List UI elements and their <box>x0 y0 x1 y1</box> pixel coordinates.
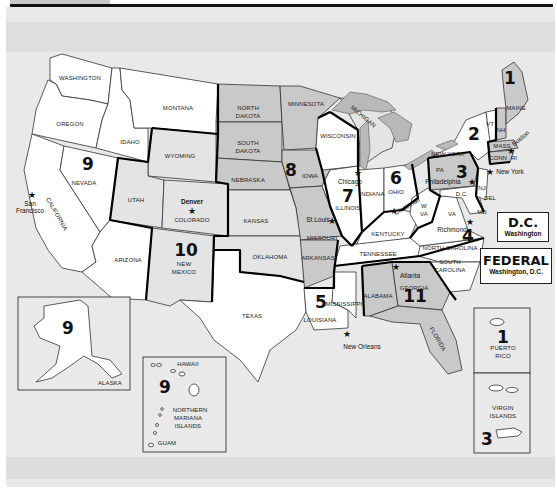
label-new-mexico-1: NEW <box>177 261 192 267</box>
label-new-hampshire: NH <box>497 127 506 133</box>
star-icon-philadelphia: ★ <box>468 177 476 187</box>
label-marianas-2: MARIANA <box>174 415 202 421</box>
star-icon-atlanta: ★ <box>392 262 400 272</box>
label-north-dakota-2: DAKOTA <box>236 113 261 119</box>
city-richmond: Richmond <box>437 226 467 233</box>
label-north-dakota-1: NORTH <box>237 105 259 111</box>
label-ohio: OHIO <box>388 189 404 195</box>
label-pennsylvania: PA <box>436 167 444 173</box>
label-delaware: DEL <box>484 195 497 201</box>
lake-michigan <box>360 120 370 170</box>
label-wisconsin: WISCONSIN <box>320 133 356 139</box>
label-virginia: VA <box>448 211 456 217</box>
state-kansas[interactable] <box>228 190 300 236</box>
state-montana[interactable] <box>120 68 218 134</box>
label-indiana: INDIANA <box>359 191 384 197</box>
region-number-1-puerto-rico: 1 <box>497 327 509 347</box>
label-new-jersey: NJ <box>478 185 486 191</box>
city-new-orleans: New Orleans <box>343 343 381 350</box>
label-virgin-islands-2: ISLANDS <box>490 413 516 419</box>
label-puerto-rico-2: RICO <box>495 353 511 359</box>
legend-federal-subtitle: Washington, D.C. <box>481 268 551 275</box>
label-nevada: NEVADA <box>72 180 97 186</box>
island-marianas-4 <box>154 432 157 435</box>
label-south-dakota-1: SOUTH <box>237 140 259 146</box>
star-icon-richmond: ★ <box>466 217 474 227</box>
region-number-11: 11 <box>403 286 427 306</box>
label-south-carolina-2: CAROLINA <box>434 267 465 273</box>
island-marianas-3 <box>156 424 159 427</box>
star-icon-new-york: ★ <box>486 167 494 177</box>
region-number-1: 1 <box>504 68 516 88</box>
state-florida[interactable] <box>370 306 462 374</box>
label-arizona: ARIZONA <box>114 257 141 263</box>
label-puerto-rico-1: PUERTO <box>490 345 516 351</box>
label-iowa: IOWA <box>302 173 318 179</box>
label-washington: WASHINGTON <box>59 75 101 81</box>
island-puerto-rico <box>490 319 504 326</box>
legend-federal-title: FEDERAL <box>481 253 551 268</box>
region-number-9-alaska: 9 <box>62 318 74 338</box>
island-oahu <box>157 364 162 367</box>
label-arkansas: ARKANSAS <box>301 255 334 261</box>
city-chicago: Chicago <box>338 178 362 186</box>
island-molokai <box>171 370 176 373</box>
label-wyoming: WYOMING <box>165 153 196 159</box>
star-icon-new-orleans: ★ <box>343 329 351 339</box>
label-south-carolina-1: SOUTH <box>439 259 461 265</box>
label-tennessee: TENNESSEE <box>359 251 396 257</box>
label-missouri: MISSOURI <box>307 235 338 241</box>
label-south-dakota-2: DAKOTA <box>236 148 261 154</box>
label-maryland: MD <box>477 209 487 215</box>
region-number-9-hawaii: 9 <box>159 377 171 397</box>
state-new-hampshire[interactable] <box>496 108 506 140</box>
state-arkansas[interactable] <box>300 240 338 288</box>
island-st-john <box>506 388 518 393</box>
star-icon-st-louis: ★ <box>328 216 336 226</box>
city-st-louis: St.Louis <box>306 216 330 223</box>
label-montana: MONTANA <box>163 105 193 111</box>
label-marianas-3: ISLANDS <box>175 423 201 429</box>
legend-dc-subtitle: Washington <box>498 230 548 237</box>
island-maui <box>179 372 185 376</box>
region-number-6: 6 <box>390 168 402 188</box>
label-connecticut: CONN <box>489 155 507 161</box>
label-idaho: IDAHO <box>120 139 140 145</box>
city-boston: Boston <box>510 129 530 148</box>
inset-hawaii-pacific[interactable] <box>143 357 226 452</box>
us-federal-regions-map: WASHINGTON OREGON IDAHO MONTANA WYOMING … <box>0 0 557 493</box>
label-guam: GUAM <box>158 440 176 446</box>
label-maine: MAINE <box>506 105 526 111</box>
label-mississippi: MISSISSIPPI <box>326 301 363 307</box>
region-number-10: 10 <box>174 240 198 260</box>
label-marianas-1: NORTHERN <box>173 407 208 413</box>
island-st-thomas <box>489 385 503 391</box>
island-kauai <box>151 364 155 367</box>
label-oregon: OREGON <box>56 121 83 127</box>
legend-box-dc: D.C. Washington <box>497 212 549 242</box>
label-louisiana: LOUISIANA <box>304 317 337 323</box>
label-alaska: ALASKA <box>98 380 122 386</box>
region-number-9: 9 <box>82 154 94 174</box>
star-icon-chicago: ★ <box>354 168 362 178</box>
label-colorado: COLORADO <box>174 217 209 223</box>
legend-box-federal: FEDERAL Washington, D.C. <box>480 248 552 284</box>
region-number-3-virgin-islands: 3 <box>481 429 493 449</box>
label-vermont: VT <box>486 121 494 127</box>
city-san-francisco-1: San <box>24 200 36 207</box>
star-icon-san-francisco: ★ <box>28 190 36 200</box>
island-big-island <box>189 384 199 396</box>
city-denver: Denver <box>181 198 204 205</box>
label-virgin-islands-1: VIRGIN <box>492 405 513 411</box>
label-kentucky: KENTUCKY <box>371 231 404 237</box>
island-marianas-1 <box>161 408 164 411</box>
region-number-2: 2 <box>468 124 480 144</box>
label-dc-small: D.C. <box>456 191 469 197</box>
label-new-mexico-2: MEXICO <box>172 269 197 275</box>
label-utah: UTAH <box>128 197 144 203</box>
region-number-7: 7 <box>342 186 354 206</box>
city-new-york: New York <box>496 168 524 175</box>
label-new-york: NEW YORK <box>431 151 464 157</box>
label-minnesota: MINNESOTA <box>288 101 324 107</box>
island-guam <box>149 443 154 447</box>
